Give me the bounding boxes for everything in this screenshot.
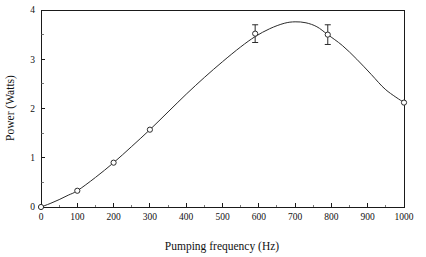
y-axis-title: Power (Watts) xyxy=(4,75,17,141)
x-tick-label: 100 xyxy=(70,212,85,222)
x-axis-title: Pumping frequency (Hz) xyxy=(165,240,279,253)
power-vs-frequency-chart: 01002003004005006007008009001000 01234 P… xyxy=(0,0,426,257)
data-point-marker xyxy=(401,100,406,105)
y-tick-label: 0 xyxy=(30,202,35,212)
x-tick-label: 300 xyxy=(143,212,158,222)
data-point-marker xyxy=(75,188,80,193)
x-tick-label: 200 xyxy=(106,212,121,222)
x-tick-label: 600 xyxy=(252,212,267,222)
x-tick-label: 900 xyxy=(361,212,376,222)
data-point-marker xyxy=(111,160,116,165)
x-tick-label: 800 xyxy=(324,212,339,222)
y-tick-label: 1 xyxy=(30,153,35,163)
x-tick-label: 0 xyxy=(39,212,44,222)
data-point-marker xyxy=(38,204,43,209)
y-tick-label: 4 xyxy=(30,5,35,15)
x-tick-label: 700 xyxy=(288,212,303,222)
y-tick-label: 2 xyxy=(30,104,35,114)
x-tick-label: 1000 xyxy=(395,212,414,222)
data-point-marker xyxy=(253,31,258,36)
y-tick-label: 3 xyxy=(30,55,35,65)
figure-container: 01002003004005006007008009001000 01234 P… xyxy=(0,0,426,257)
x-tick-label: 500 xyxy=(215,212,230,222)
x-tick-label: 400 xyxy=(179,212,194,222)
data-point-marker xyxy=(147,127,152,132)
data-point-marker xyxy=(325,32,330,37)
